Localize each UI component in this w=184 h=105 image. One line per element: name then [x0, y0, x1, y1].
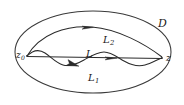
figure-container: D z0 z L2 L L1 [0, 0, 184, 105]
label-end-point-z: z [166, 54, 171, 63]
label-path-L: L [86, 49, 93, 59]
label-L1-subscript: 1 [95, 77, 99, 85]
path-L-straight [27, 57, 162, 59]
endpoint-z0-node [26, 55, 28, 57]
label-z0-subscript: 0 [21, 54, 25, 61]
endpoint-z-node [161, 57, 163, 59]
label-start-point-z0: z0 [16, 51, 25, 60]
label-L2-base: L [103, 34, 110, 45]
label-L2-subscript: 2 [110, 39, 114, 47]
label-domain-D: D [158, 18, 167, 29]
label-path-L2: L2 [103, 35, 114, 45]
label-L1-base: L [88, 72, 95, 83]
path-L2-curve [27, 27, 162, 57]
label-path-L1: L1 [88, 73, 99, 83]
